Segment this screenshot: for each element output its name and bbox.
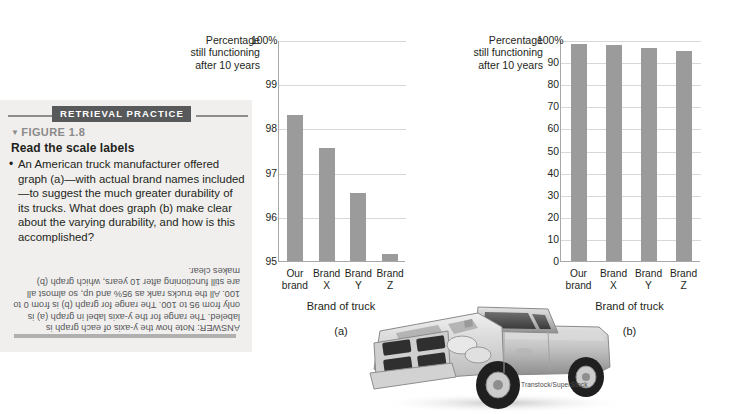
bar: [606, 45, 622, 261]
y-axis-tick-label: 99: [251, 80, 277, 90]
y-axis-tick-label: 95: [251, 257, 277, 267]
chart-a-plot-area: 9596979899100%OurbrandBrandXBrandYBrandZ: [278, 41, 405, 262]
chart-b-y-axis-title: Percentagestill functioningafter 10 year…: [439, 34, 543, 71]
y-axis-tick-label: 60: [537, 124, 559, 134]
bar: [571, 44, 587, 261]
y-axis-tick-label: 50: [537, 147, 559, 157]
chart-b-plot-area: 0102030405060708090100%OurbrandBrandXBra…: [560, 41, 700, 262]
y-axis-tick-label: 100%: [251, 36, 277, 46]
chart-a-y-axis-title: Percentagestill functioningafter 10 year…: [166, 34, 260, 71]
chart-graph-b: Percentagestill functioningafter 10 year…: [455, 20, 700, 320]
bar: [350, 193, 366, 262]
photo-credit: Transtock/SuperStock: [521, 381, 588, 388]
y-axis-tick-label: 0: [537, 257, 559, 267]
chart-graph-a: Percentagestill functioningafter 10 year…: [170, 20, 405, 320]
bar: [641, 48, 657, 261]
gridline: [279, 85, 406, 86]
y-axis-title-line: still functioning: [166, 46, 260, 58]
x-axis-tick-label-line: Z: [660, 280, 707, 292]
pickup-truck-photo: [352, 281, 642, 414]
bar: [676, 51, 692, 261]
y-axis-tick-label: 70: [537, 102, 559, 112]
y-axis-title-line: still functioning: [439, 46, 543, 58]
y-axis-title-line: Percentage: [439, 34, 543, 46]
figure-number-line: ▼FIGURE 1.8: [11, 126, 85, 138]
y-axis-tick-label: 97: [251, 169, 277, 179]
panel-bottom-rule: [14, 334, 236, 338]
y-axis-tick-label: 96: [251, 213, 277, 223]
y-axis-tick-label: 90: [537, 58, 559, 68]
y-axis-title-line: Percentage: [166, 34, 260, 46]
bar: [319, 148, 335, 261]
truck-illustration: [352, 281, 642, 414]
gridline: [561, 41, 701, 42]
x-axis-tick-label: BrandZ: [660, 268, 707, 291]
y-axis-tick-label: 98: [251, 124, 277, 134]
y-axis-tick-label: 10: [537, 235, 559, 245]
banner-rule-left: [8, 115, 56, 117]
y-axis-title-line: after 10 years: [439, 59, 543, 71]
y-axis-tick-label: 40: [537, 169, 559, 179]
caret-down-icon: ▼: [11, 128, 19, 137]
y-axis-tick-label: 30: [537, 191, 559, 201]
bar: [382, 254, 398, 261]
x-axis-tick-label-line: Brand: [660, 268, 707, 280]
figure-title: Read the scale labels: [11, 141, 135, 155]
figure-number: FIGURE 1.8: [21, 126, 85, 138]
y-axis-title-line: after 10 years: [166, 59, 260, 71]
bullet-marker: •: [9, 157, 13, 172]
gridline: [279, 41, 406, 42]
y-axis-tick-label: 20: [537, 213, 559, 223]
bar: [287, 115, 303, 261]
x-axis-tick-label-line: Brand: [368, 268, 412, 280]
y-axis-tick-label: 100%: [537, 36, 559, 46]
y-axis-tick-label: 80: [537, 80, 559, 90]
